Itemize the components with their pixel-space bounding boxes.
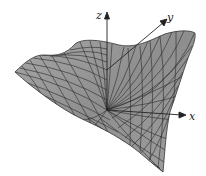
z-axis-label: z [95,9,102,22]
y-axis-label: y [166,11,174,24]
z-axis-arrow-icon [105,12,110,19]
x-axis-label: x [189,110,196,123]
x-axis-arrow-icon [179,112,186,118]
surface-plot: z y x [0,0,206,176]
